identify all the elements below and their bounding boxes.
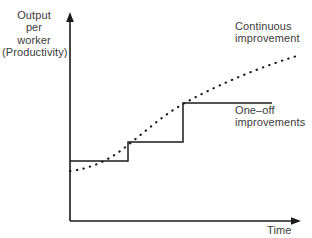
x-axis-label: Time xyxy=(267,224,291,236)
x-axis-arrowhead xyxy=(291,217,301,225)
one-off-improvements-annotation: One–off improvements xyxy=(235,104,311,129)
productivity-chart: Output per worker (Productivity) Time Co… xyxy=(0,0,312,238)
continuous-improvement-annotation: Continuous improvement xyxy=(235,20,311,45)
y-axis-arrowhead xyxy=(66,12,74,22)
y-axis-label: Output per worker (Productivity) xyxy=(2,9,66,59)
